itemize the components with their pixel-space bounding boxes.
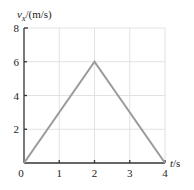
velocity-time-chart: 8 6 4 2 0 1 2 3 4 vx/(m/s) t/s	[0, 0, 194, 190]
svg-text:4: 4	[14, 90, 20, 102]
svg-text:4: 4	[162, 167, 168, 179]
grid	[24, 28, 165, 163]
svg-text:6: 6	[14, 56, 20, 68]
svg-text:3: 3	[127, 167, 133, 179]
x-tick-labels: 0 1 2 3 4	[18, 167, 168, 179]
svg-text:2: 2	[92, 167, 98, 179]
y-axis-label: vx/(m/s)	[17, 8, 52, 23]
svg-text:2: 2	[14, 123, 20, 135]
svg-text:8: 8	[14, 22, 20, 34]
x-axis-label: t/s	[170, 157, 180, 169]
y-tick-labels: 8 6 4 2	[14, 22, 20, 135]
svg-text:0: 0	[18, 167, 24, 179]
svg-text:1: 1	[57, 167, 63, 179]
